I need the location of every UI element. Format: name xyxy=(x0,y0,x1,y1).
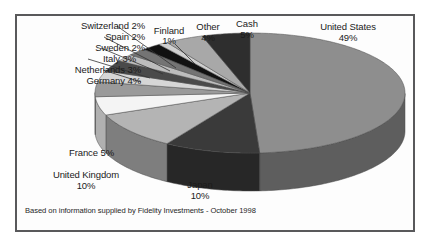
slice-label-united-states-pct: 49% xyxy=(300,33,396,44)
slice-label-sweden: Sweden 2% xyxy=(20,43,145,54)
slice-label-spain: Spain 2% xyxy=(30,32,145,43)
slice-label-united-kingdom-name: United Kingdom xyxy=(28,170,144,181)
slice-label-france: France 5% xyxy=(28,148,114,159)
slice-label-finland-pct: 1% xyxy=(144,36,194,47)
screenshot-root: Switzerland 2% Spain 2% Sweden 2% Italy … xyxy=(0,0,431,246)
slice-label-cash-name: Cash xyxy=(229,19,265,30)
slice-label-other-name: Other xyxy=(189,22,227,33)
slice-label-other-pct: 4% xyxy=(189,33,227,44)
slice-label-netherlands: Netherlands 3% xyxy=(10,65,141,76)
slice-label-cash-pct: 5% xyxy=(229,30,265,41)
slice-label-germany: Germany 4% xyxy=(14,76,141,87)
slice-label-switzerland: Switzerland 2% xyxy=(30,21,145,32)
pie-chart: Switzerland 2% Spain 2% Sweden 2% Italy … xyxy=(0,0,431,246)
slice-label-japan-pct: 10% xyxy=(175,191,225,202)
slice-label-united-states-name: United States xyxy=(300,22,396,33)
slice-label-japan-name: Japan xyxy=(175,180,225,191)
slice-label-united-kingdom-pct: 10% xyxy=(28,181,144,192)
slice-label-italy: Italy 3% xyxy=(20,54,136,65)
chart-source-caption: Based on information supplied by Fidelit… xyxy=(25,206,256,215)
